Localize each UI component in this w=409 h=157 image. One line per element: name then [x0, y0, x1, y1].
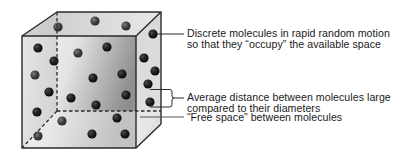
molecule-top: [53, 22, 62, 31]
molecule-front: [121, 90, 130, 99]
molecule-front: [102, 42, 111, 51]
molecule-front: [88, 73, 97, 82]
molecule-front: [33, 131, 42, 140]
molecule-front: [91, 100, 100, 109]
molecule-front: [33, 43, 42, 52]
molecule-front: [73, 48, 82, 57]
molecule-side: [139, 53, 148, 62]
molecule-front: [32, 107, 41, 116]
cube-illustration: [0, 0, 409, 157]
molecule-side: [143, 79, 152, 88]
callout-line: “Free space” between molecules: [187, 112, 342, 123]
callout-line: so that they “occupy” the available spac…: [187, 39, 390, 50]
molecule-front: [87, 129, 96, 138]
molecule-side: [148, 29, 157, 38]
molecule-side: [150, 66, 159, 75]
molecule-front: [30, 70, 39, 79]
molecule-side: [145, 97, 154, 106]
molecule-front: [57, 116, 66, 125]
gas-container-diagram: Discrete molecules in rapid random motio…: [0, 0, 409, 157]
molecule-top: [121, 21, 130, 30]
molecule-front: [117, 69, 126, 78]
molecule-front: [120, 129, 129, 138]
callout-discrete-molecules: Discrete molecules in rapid random motio…: [187, 28, 390, 50]
molecule-front: [112, 113, 121, 122]
molecule-front: [66, 93, 75, 102]
callout-free-space: “Free space” between molecules: [187, 112, 342, 123]
molecule-top: [90, 16, 99, 25]
molecule-front: [44, 87, 53, 96]
